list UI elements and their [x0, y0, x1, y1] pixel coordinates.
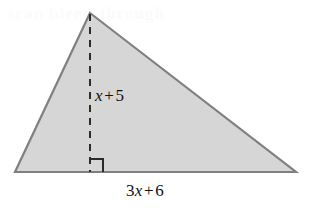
triangle-shape: [15, 13, 296, 172]
altitude-length-label: x+5: [95, 87, 124, 104]
base-constant: 6: [155, 181, 164, 200]
altitude-operator: +: [103, 86, 116, 105]
altitude-variable: x: [95, 86, 103, 105]
base-coefficient: 3: [126, 181, 135, 200]
base-operator: +: [142, 181, 155, 200]
altitude-constant: 5: [116, 86, 125, 105]
base-length-label: 3x+6: [126, 182, 164, 199]
geometry-figure: scan bleed-through x+5 3x+6: [0, 0, 309, 212]
